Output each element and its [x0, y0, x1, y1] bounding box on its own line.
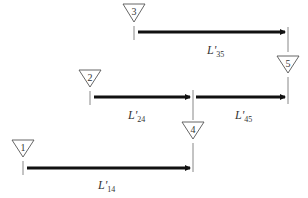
node-1: 1	[12, 140, 34, 175]
node-4: 4	[182, 90, 204, 172]
node-5-label: 5	[286, 58, 291, 69]
edge-1-4-label: L'14	[97, 178, 115, 194]
node-5: 5	[277, 27, 299, 104]
edge-2-4-label: L'24	[127, 108, 145, 124]
edge-3-5-label: L'35	[206, 43, 224, 59]
node-3-label: 3	[132, 6, 137, 17]
node-3: 3	[123, 4, 145, 40]
node-1-label: 1	[21, 142, 26, 153]
node-2-label: 2	[88, 72, 93, 83]
diagram-canvas: 3 L'35 5 2 L'24 L'45 4 1 L'14	[0, 0, 308, 198]
node-4-label: 4	[191, 124, 196, 135]
edge-4-5-label: L'45	[234, 108, 252, 124]
node-2: 2	[79, 70, 101, 105]
